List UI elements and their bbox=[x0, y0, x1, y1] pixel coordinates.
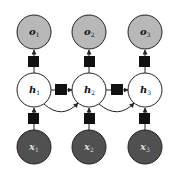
factor-x3 bbox=[139, 113, 150, 124]
factor-o1 bbox=[28, 56, 39, 67]
factor-h2-h3 bbox=[111, 84, 123, 95]
factor-h1-h2 bbox=[55, 84, 67, 95]
diagram: o1 o2 o3 h1 h2 h3 x1 x2 x3 bbox=[0, 0, 174, 175]
edge-h2-h3-curve bbox=[99, 103, 134, 112]
factor-o3 bbox=[139, 56, 150, 67]
factor-o2 bbox=[84, 56, 95, 67]
factor-x1 bbox=[28, 113, 39, 124]
input-nodes: x1 x2 x3 bbox=[17, 130, 162, 164]
hidden-nodes: h1 h2 h3 bbox=[17, 73, 162, 107]
factor-x2 bbox=[84, 113, 95, 124]
output-nodes: o1 o2 o3 bbox=[17, 15, 162, 49]
edge-h1-h2-curve bbox=[44, 103, 78, 112]
